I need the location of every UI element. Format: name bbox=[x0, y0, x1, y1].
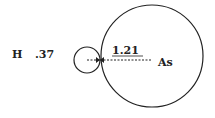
atomic-radius-diagram: H .37 1.21 As bbox=[0, 0, 215, 118]
bond-length-label: 1.21 bbox=[112, 44, 139, 57]
hydrogen-label: H bbox=[12, 48, 22, 61]
arsenic-label: As bbox=[157, 56, 173, 69]
hydrogen-radius-label: .37 bbox=[35, 48, 54, 61]
